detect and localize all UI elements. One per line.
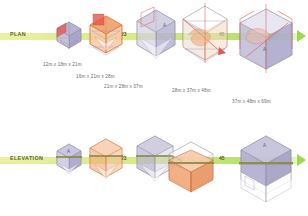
dim-note-3: 21m x 28m x 37m (104, 84, 143, 89)
elev-fig1-mass: A (56, 144, 82, 174)
elevation-figure-5: A (227, 128, 305, 208)
plan-figure-2 (83, 11, 129, 59)
plan-fig5-mass: A (240, 4, 292, 73)
plan-fig3-mass: A (137, 7, 175, 59)
elev-fig2-mass (89, 139, 123, 179)
plan-fig2-mass (90, 14, 122, 55)
elevation-figure-4 (159, 136, 223, 196)
plan-row-label: PLAN (10, 31, 26, 37)
elevation-figure-2 (83, 134, 129, 184)
plan-figure-5: A (226, 1, 306, 81)
elevation-figure-1: A (52, 140, 86, 176)
elev-fig4-mass (168, 142, 214, 192)
elev-fig5-mass: A (239, 136, 293, 202)
dim-note-1: 12m x 18m x 21m (43, 62, 82, 67)
elevation-row-label: ELEVATION (10, 155, 43, 161)
plan-fig4-mass (183, 3, 227, 63)
dim-note-2: 16m x 21m x 28m (76, 74, 115, 79)
dim-note-4: 28m x 37m x 48m (172, 88, 211, 93)
plan-fig1-mass (57, 22, 81, 49)
diagram-canvas: PLAN 1 23 45 (0, 0, 308, 216)
dim-note-5: 37m x 48m x 69m (232, 99, 271, 104)
plan-figure-1 (52, 18, 86, 52)
